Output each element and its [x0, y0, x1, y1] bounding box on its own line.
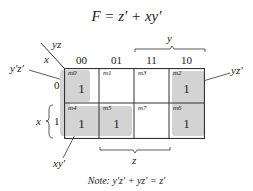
- note-prefix: Note:: [88, 175, 110, 186]
- span-label-x: x: [36, 115, 41, 127]
- span-label-y: y: [167, 32, 172, 44]
- note-body: y′z′ + yz′ = z′: [110, 175, 165, 186]
- col-header-11: 11: [134, 54, 169, 66]
- corner-row-var-label: x: [44, 53, 49, 65]
- group-label-xy-prime: xy′: [53, 157, 65, 169]
- group-label-yz-prime: yz′: [231, 64, 243, 76]
- kmap-grid: m0 1 m1 m3 m2 1 m4 1 m5 1 m7 m6 1: [64, 68, 205, 139]
- grid-lines: [64, 68, 205, 139]
- row-header-1: 1: [54, 115, 60, 127]
- group-label-yz-prime-y-prime: y′z′: [10, 62, 24, 74]
- col-header-10: 10: [169, 54, 204, 66]
- span-label-z: z: [132, 154, 136, 166]
- col-header-01: 01: [99, 54, 134, 66]
- note-text: Note: y′z′ + yz′ = z′: [0, 175, 253, 186]
- corner-col-var-label: yz: [52, 38, 61, 50]
- row-header-0: 0: [54, 79, 60, 91]
- col-header-00: 00: [64, 54, 99, 66]
